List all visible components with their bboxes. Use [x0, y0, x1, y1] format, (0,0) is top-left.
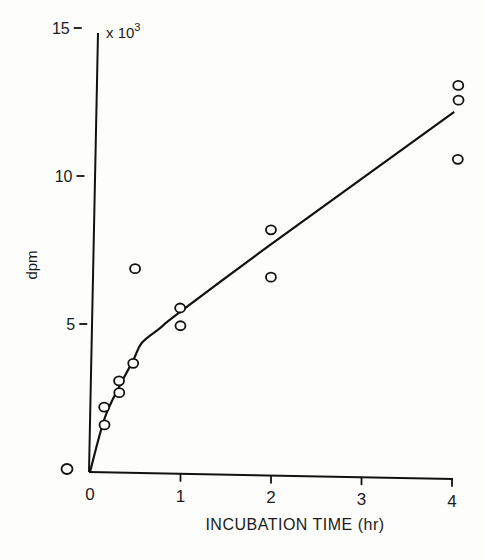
x-tick-label: 0 — [85, 485, 94, 504]
data-point — [100, 420, 110, 429]
y-axis-label: dpm — [23, 250, 40, 279]
x-tick-label: 2 — [266, 488, 275, 507]
x-axis-label: INCUBATION TIME (hr) — [205, 516, 384, 533]
y-ticks: 51015 — [52, 20, 87, 333]
y-tick-label: 10 — [55, 168, 73, 185]
y-multiplier-label: x 103 — [106, 21, 140, 41]
x-ticks: 01234 — [85, 474, 456, 511]
data-point — [266, 273, 276, 282]
y-tick-label: 5 — [66, 316, 75, 333]
data-point — [175, 303, 185, 312]
axes — [89, 33, 453, 479]
data-points — [99, 81, 463, 430]
data-point — [99, 403, 109, 412]
y-axis — [89, 33, 98, 472]
x-tick-label: 4 — [447, 492, 456, 511]
data-point — [128, 359, 138, 368]
data-point — [453, 81, 463, 90]
data-point — [453, 155, 463, 164]
y-tick-label: 15 — [52, 20, 70, 37]
origin-point-marker — [62, 464, 73, 474]
x-tick-label: 1 — [176, 487, 185, 506]
data-point — [266, 225, 276, 234]
data-point — [114, 376, 124, 385]
data-point — [175, 321, 185, 330]
chart: 51015 01234 x 103 dpm INCUBATION TIME (h… — [0, 0, 484, 560]
fitted-curve — [90, 112, 454, 472]
data-point — [130, 264, 140, 273]
data-point — [114, 388, 124, 397]
x-tick-label: 3 — [357, 490, 366, 509]
data-point — [454, 96, 464, 105]
